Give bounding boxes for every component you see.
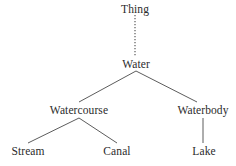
tree-edge-watercourse-stream bbox=[28, 118, 79, 143]
taxonomy-tree-diagram: Thing Water Watercourse Waterbody Stream… bbox=[0, 0, 236, 166]
tree-node-stream[interactable]: Stream bbox=[11, 145, 44, 157]
tree-edge-water-watercourse bbox=[79, 71, 136, 102]
tree-node-watercourse[interactable]: Watercourse bbox=[50, 104, 108, 116]
tree-edges-layer bbox=[0, 0, 236, 166]
tree-edge-watercourse-canal bbox=[79, 118, 117, 143]
tree-node-waterbody[interactable]: Waterbody bbox=[177, 104, 228, 116]
tree-node-canal[interactable]: Canal bbox=[103, 145, 130, 157]
tree-node-water[interactable]: Water bbox=[122, 58, 150, 70]
tree-node-thing[interactable]: Thing bbox=[121, 3, 149, 15]
tree-edge-water-waterbody bbox=[136, 71, 197, 102]
tree-node-lake[interactable]: Lake bbox=[192, 145, 215, 157]
